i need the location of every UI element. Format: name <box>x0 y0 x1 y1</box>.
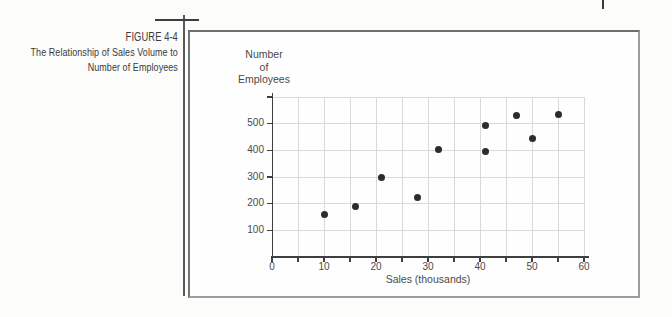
data-point <box>529 135 536 142</box>
y-tick-label: 400 <box>236 144 264 155</box>
horizontal-gridline <box>272 123 584 124</box>
y-axis-tick <box>267 176 272 177</box>
y-tick-label: 500 <box>236 117 264 128</box>
data-point <box>378 174 385 181</box>
data-point <box>321 211 328 218</box>
horizontal-gridline <box>272 150 584 151</box>
x-tick-label: 50 <box>519 261 545 272</box>
x-tick-label: 60 <box>571 261 597 272</box>
x-axis-line <box>271 256 589 258</box>
y-axis-tick <box>267 203 272 204</box>
x-axis-tick <box>453 258 454 263</box>
data-point <box>414 194 421 201</box>
y-axis-title-line-3: Employees <box>220 73 308 86</box>
y-tick-label: 100 <box>236 224 264 235</box>
x-axis-tick <box>349 258 350 263</box>
figure-label: FIGURE 4-4 <box>31 30 178 45</box>
horizontal-gridline <box>272 230 584 231</box>
y-axis-title-line-2: of <box>220 61 308 74</box>
data-point <box>482 122 489 129</box>
data-point <box>513 112 520 119</box>
y-axis-title-line-1: Number <box>220 48 308 61</box>
x-axis-tick <box>505 258 506 263</box>
horizontal-gridline <box>272 97 584 98</box>
figure-caption-line-1: The Relationship of Sales Volume to <box>31 45 178 60</box>
x-axis-title: Sales (thousands) <box>272 273 584 285</box>
data-point <box>482 148 489 155</box>
textbook-figure-page: FIGURE 4-4 The Relationship of Sales Vol… <box>0 0 672 317</box>
scatter-plot-area: Sales (thousands) 0102030405060100200300… <box>272 97 584 257</box>
y-axis-tick <box>267 96 272 97</box>
data-point <box>555 111 562 118</box>
y-tick-label: 300 <box>236 171 264 182</box>
x-axis-tick <box>297 258 298 263</box>
x-tick-label: 20 <box>363 261 389 272</box>
page-crop-mark <box>602 0 604 9</box>
x-axis-tick <box>401 258 402 263</box>
horizontal-gridline <box>272 203 584 204</box>
margin-rule-horizontal-tick <box>155 19 199 21</box>
data-point <box>435 146 442 153</box>
figure-caption: FIGURE 4-4 The Relationship of Sales Vol… <box>31 30 178 75</box>
y-axis-tick <box>267 123 272 124</box>
horizontal-gridline <box>272 177 584 178</box>
x-tick-label: 30 <box>415 261 441 272</box>
x-tick-label: 10 <box>311 261 337 272</box>
figure-box: Number of Employees Sales (thousands) 01… <box>188 30 640 298</box>
y-axis-tick <box>267 150 272 151</box>
y-tick-label: 200 <box>236 197 264 208</box>
x-tick-label: 40 <box>467 261 493 272</box>
x-axis-tick <box>557 258 558 263</box>
x-tick-label: 0 <box>259 261 285 272</box>
figure-caption-line-2: Number of Employees <box>31 60 178 75</box>
y-axis-title: Number of Employees <box>220 48 308 86</box>
margin-rule-vertical <box>183 15 185 296</box>
data-point <box>352 203 359 210</box>
y-axis-tick <box>267 230 272 231</box>
